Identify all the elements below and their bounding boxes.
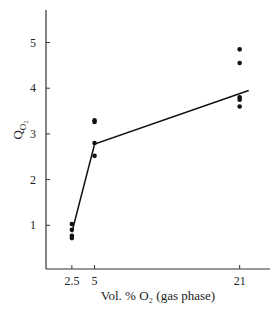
data-point [237, 61, 242, 66]
axis-labels: Vol. % O₂ (gas phase)QO₂ [10, 120, 215, 303]
chart: 123452.5521 Vol. % O₂ (gas phase)QO₂ [0, 0, 278, 314]
x-tick-label: 2.5 [64, 274, 79, 288]
axes [46, 10, 270, 269]
data-point [70, 236, 75, 241]
y-tick-label: 5 [30, 36, 36, 50]
data-point [92, 141, 97, 146]
x-tick-label: 21 [234, 274, 246, 288]
y-tick-label: 1 [30, 218, 36, 232]
svg-text:QO₂: QO₂ [10, 120, 28, 139]
data-point [70, 228, 75, 233]
y-tick-label: 4 [30, 81, 36, 95]
data-point [237, 97, 242, 102]
data-point [92, 120, 97, 125]
y-tick-label: 2 [30, 173, 36, 187]
data-point [237, 104, 242, 109]
fit-line-path [72, 91, 249, 233]
ticks: 123452.5521 [30, 36, 246, 289]
data-points [70, 47, 242, 240]
fit-line [72, 91, 249, 233]
data-point [70, 222, 75, 227]
x-tick-label: 5 [92, 274, 98, 288]
data-point [92, 154, 97, 159]
data-point [237, 47, 242, 52]
x-axis-label: Vol. % O₂ (gas phase) [101, 288, 215, 303]
y-axis-label: QO₂ [10, 120, 28, 139]
y-tick-label: 3 [30, 127, 36, 141]
